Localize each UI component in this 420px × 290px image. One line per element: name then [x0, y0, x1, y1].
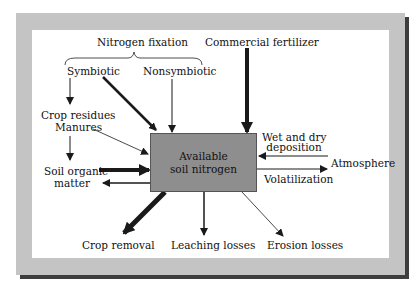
symbiotic-label: Symbiotic: [67, 65, 120, 77]
arrow-box-to-erosion: [242, 192, 283, 236]
erosion-losses-label: Erosion losses: [267, 239, 343, 251]
arrow-symbiotic-to-box: [103, 77, 156, 130]
node-label-line1: Available: [179, 150, 228, 163]
commercial-fertilizer-label: Commercial fertilizer: [205, 36, 319, 48]
crop-residues-label: Crop residues: [41, 109, 116, 121]
leaching-losses-label: Leaching losses: [171, 239, 255, 251]
nitrogen-fixation-label: Nitrogen fixation: [97, 36, 188, 48]
node-label-line2: soil nitrogen: [170, 163, 237, 176]
fixation-brace: [65, 52, 202, 65]
soil-organic-line2: matter: [44, 177, 100, 189]
atmosphere-label: Atmosphere: [331, 157, 395, 169]
available-soil-nitrogen-node: Available soil nitrogen: [150, 133, 257, 192]
volatilization-label: Volatilization: [264, 173, 333, 185]
soil-organic-line1: Soil organic: [44, 165, 100, 177]
wet-dry-line2: deposition: [262, 141, 326, 153]
arrow-box-to-crop-removal: [124, 192, 165, 233]
manures-label: Manures: [55, 121, 102, 133]
nonsymbiotic-label: Nonsymbiotic: [143, 65, 216, 77]
crop-removal-label: Crop removal: [82, 239, 155, 251]
